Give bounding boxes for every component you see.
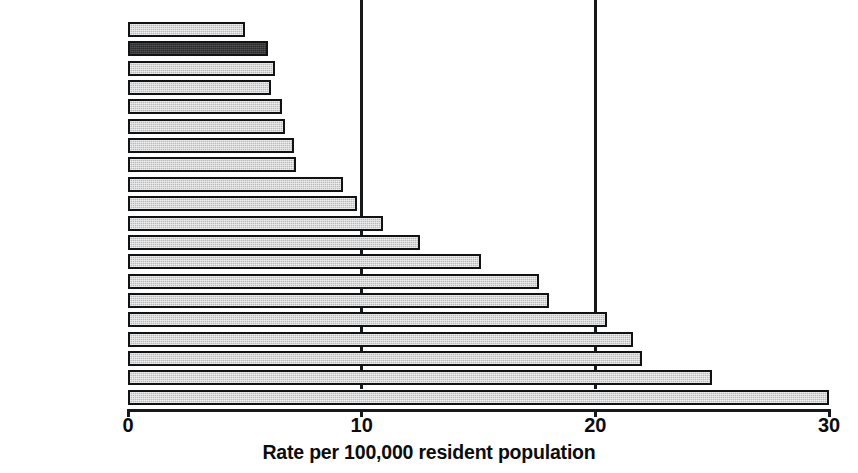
bar-row (128, 370, 712, 385)
bar-latvia (128, 390, 829, 405)
bar-row (128, 293, 549, 308)
bar-row (128, 157, 296, 172)
bar-row (128, 80, 271, 95)
bar-uk (128, 41, 268, 56)
bar-poland (128, 254, 481, 269)
bar-row (128, 312, 607, 327)
bar-germany (128, 177, 343, 192)
bar-row (128, 61, 275, 76)
bar-austria (128, 196, 357, 211)
x-tick-label-20: 20 (584, 414, 606, 437)
bar-row (128, 99, 282, 114)
plot-area: SwedenUKFinlandNetherlandsCroatiaCzech R… (128, 22, 829, 409)
bar-row (128, 254, 481, 269)
bar-luxembourg (128, 216, 383, 231)
bar-estonia (128, 370, 712, 385)
bar-hungary (128, 235, 420, 250)
x-tick-label-30: 30 (818, 414, 840, 437)
bar-sweden (128, 22, 245, 37)
bar-chart: SwedenUKFinlandNetherlandsCroatiaCzech R… (0, 0, 858, 473)
bar-row (128, 216, 383, 231)
bar-row (128, 196, 357, 211)
bar-greece (128, 332, 633, 347)
bar-row (128, 177, 343, 192)
bar-row (128, 22, 245, 37)
bar-portugal (128, 312, 607, 327)
bar-israel (128, 157, 296, 172)
bar-russia (128, 351, 642, 366)
bar-denmark (128, 138, 294, 153)
bar-row (128, 41, 268, 56)
bar-row (128, 351, 642, 366)
bar-row (128, 332, 633, 347)
bar-finland (128, 61, 275, 76)
x-tick-label-10: 10 (351, 414, 373, 437)
bar-belarus (128, 274, 539, 289)
bar-row (128, 274, 539, 289)
x-axis-line (128, 409, 831, 412)
x-axis-title: Rate per 100,000 resident population (0, 441, 858, 464)
bar-netherlands (128, 80, 271, 95)
bar-row (128, 390, 829, 405)
bar-row (128, 138, 294, 153)
bar-croatia (128, 99, 282, 114)
bar-czech-rep (128, 119, 285, 134)
bar-row (128, 235, 420, 250)
bar-row (128, 119, 285, 134)
bar-greece (128, 293, 549, 308)
x-tick-label-0: 0 (122, 414, 133, 437)
